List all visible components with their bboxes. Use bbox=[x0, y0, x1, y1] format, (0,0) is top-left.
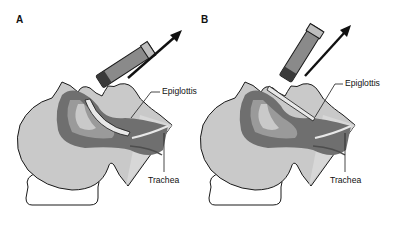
panel-b: B Epiglottis Trachea bbox=[197, 0, 394, 225]
trachea-label-b: Trachea bbox=[330, 175, 361, 185]
intubation-diagram-a bbox=[0, 0, 197, 225]
epiglottis-label-a: Epiglottis bbox=[162, 86, 197, 96]
intubation-diagram-b bbox=[197, 0, 394, 225]
trachea-label-a: Trachea bbox=[148, 175, 179, 185]
panel-a: A Epiglottis Trachea bbox=[0, 0, 197, 225]
epiglottis-label-b: Epiglottis bbox=[345, 78, 380, 88]
